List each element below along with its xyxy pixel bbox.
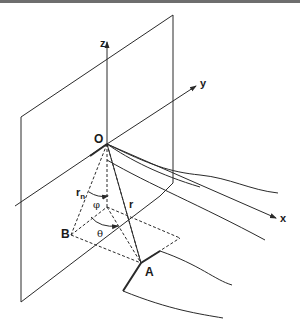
surface-curve-4 [123,291,223,318]
normal-radius-label: rn [76,186,85,201]
surface-curve-3 [160,251,232,285]
theta-arc [91,217,118,226]
diagram-canvas: z y x O A B r rn φ θ [0,0,300,332]
thick-edge-a [123,251,160,291]
vertical-plane [21,15,173,302]
y-axis [107,86,196,144]
phi-label: φ [93,199,100,210]
radius-r-label: r [129,198,134,210]
dashed-construction [71,144,180,263]
theta-label: θ [97,228,103,239]
z-axis-label: z [100,37,106,49]
origin-label: O [94,132,103,146]
y-axis-label: y [200,77,207,89]
phi-arc [89,192,108,197]
x-axis-label: x [280,212,287,224]
point-b-label: B [61,227,70,241]
point-a-label: A [145,265,154,279]
surface-curve-1 [107,144,278,193]
